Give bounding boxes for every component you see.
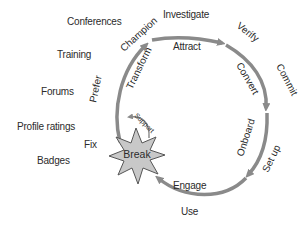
cycle-arrows: Break Champion Transform Prefer Support … xyxy=(0,0,306,226)
side-label-badges: Badges xyxy=(37,156,70,166)
customer-lifecycle-diagram: Break Champion Transform Prefer Support … xyxy=(0,0,306,226)
label-commit: Commit xyxy=(274,62,300,98)
label-attract: Attract xyxy=(173,42,201,52)
label-champion: Champion xyxy=(118,15,159,54)
label-onboard: Onboard xyxy=(234,117,256,157)
side-label-profile-ratings: Profile ratings xyxy=(17,122,75,132)
side-label-training: Training xyxy=(57,50,91,60)
label-prefer: Prefer xyxy=(87,74,104,104)
side-label-conferences: Conferences xyxy=(67,17,122,27)
label-verify: Verify xyxy=(235,20,261,44)
label-investigate: Investigate xyxy=(163,10,209,20)
break-label: Break xyxy=(123,148,151,160)
side-label-forums: Forums xyxy=(41,87,74,97)
label-fix: Fix xyxy=(84,140,97,150)
label-engage: Engage xyxy=(173,181,206,191)
label-use: Use xyxy=(181,207,198,217)
label-convert: Convert xyxy=(234,61,261,97)
